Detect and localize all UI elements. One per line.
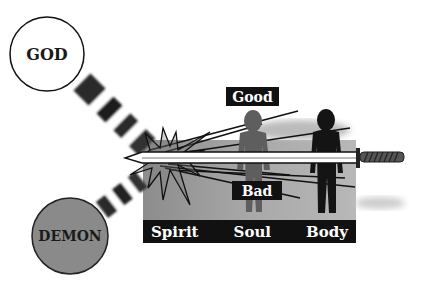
part-spirit: Spirit <box>151 223 199 241</box>
part-body: Body <box>306 223 348 241</box>
good-label: Good <box>226 87 279 106</box>
demon-beam <box>96 171 148 218</box>
sword-guard <box>356 148 360 168</box>
part-soul: Soul <box>234 223 271 241</box>
god-beam <box>74 74 156 156</box>
god-label: GOD <box>10 40 84 68</box>
spirit-soul-body-diagram: GOD DEMON Good Bad Spirit Soul Body <box>0 0 427 297</box>
parts-bar: Spirit Soul Body <box>143 220 356 243</box>
sword-blade <box>125 152 357 163</box>
demon-label: DEMON <box>32 223 108 249</box>
bad-label: Bad <box>232 181 282 200</box>
